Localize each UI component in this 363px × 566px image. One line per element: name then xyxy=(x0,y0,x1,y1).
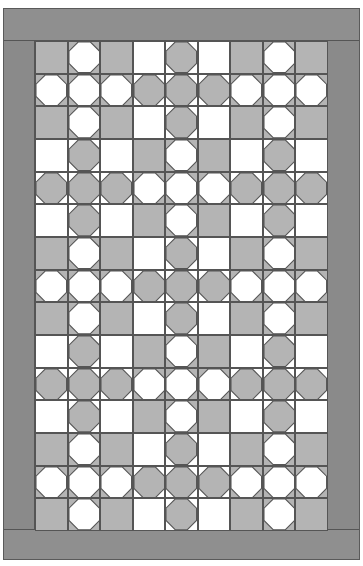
snowball-octagon xyxy=(165,368,198,401)
snowball-octagon xyxy=(165,466,198,499)
snowball-octagon xyxy=(165,433,198,466)
plain-square xyxy=(133,302,166,335)
octagon-shape xyxy=(69,499,100,530)
octagon-shape xyxy=(166,467,197,498)
snowball-octagon xyxy=(263,204,296,237)
quilt-border-left xyxy=(4,41,35,529)
snowball-octagon xyxy=(35,74,68,107)
snowball-octagon xyxy=(263,74,296,107)
octagon-shape xyxy=(69,401,100,432)
octagon-shape xyxy=(101,75,132,106)
octagon-shape xyxy=(231,369,262,400)
octagon-shape xyxy=(264,434,295,465)
octagon-shape xyxy=(69,75,100,106)
octagon-shape xyxy=(264,238,295,269)
octagon-shape xyxy=(264,173,295,204)
snowball-octagon xyxy=(263,302,296,335)
snowball-octagon xyxy=(165,498,198,531)
octagon-shape xyxy=(264,140,295,171)
quilt-border-bottom xyxy=(4,529,359,559)
snowball-octagon xyxy=(165,139,198,172)
octagon-shape xyxy=(199,271,230,302)
octagon-shape xyxy=(69,467,100,498)
snowball-octagon xyxy=(198,368,231,401)
octagon-shape xyxy=(296,173,327,204)
octagon-shape xyxy=(264,499,295,530)
octagon-shape xyxy=(166,75,197,106)
plain-square xyxy=(100,302,133,335)
octagon-shape xyxy=(264,303,295,334)
plain-square xyxy=(100,204,133,237)
snowball-octagon xyxy=(263,139,296,172)
octagon-shape xyxy=(69,434,100,465)
octagon-shape xyxy=(36,369,67,400)
plain-square xyxy=(35,106,68,139)
plain-square xyxy=(198,204,231,237)
octagon-shape xyxy=(296,75,327,106)
plain-square xyxy=(198,41,231,74)
snowball-octagon xyxy=(68,433,101,466)
octagon-shape xyxy=(134,467,165,498)
plain-square xyxy=(295,41,328,74)
plain-square xyxy=(133,498,166,531)
snowball-octagon xyxy=(295,368,328,401)
plain-square xyxy=(198,139,231,172)
octagon-shape xyxy=(231,271,262,302)
octagon-shape xyxy=(69,336,100,367)
plain-square xyxy=(35,335,68,368)
snowball-octagon xyxy=(263,106,296,139)
octagon-shape xyxy=(69,107,100,138)
plain-square xyxy=(35,204,68,237)
plain-square xyxy=(295,106,328,139)
octagon-shape xyxy=(36,271,67,302)
snowball-octagon xyxy=(230,172,263,205)
snowball-octagon xyxy=(68,302,101,335)
snowball-octagon xyxy=(68,466,101,499)
snowball-octagon xyxy=(230,368,263,401)
plain-square xyxy=(295,139,328,172)
snowball-octagon xyxy=(35,172,68,205)
snowball-octagon xyxy=(198,172,231,205)
snowball-octagon xyxy=(230,74,263,107)
snowball-octagon xyxy=(68,237,101,270)
snowball-octagon xyxy=(165,106,198,139)
snowball-octagon xyxy=(100,74,133,107)
snowball-octagon xyxy=(165,270,198,303)
plain-square xyxy=(198,302,231,335)
snowball-octagon xyxy=(68,106,101,139)
snowball-octagon xyxy=(68,270,101,303)
snowball-octagon xyxy=(68,498,101,531)
plain-square xyxy=(35,433,68,466)
snowball-octagon xyxy=(165,74,198,107)
octagon-shape xyxy=(231,75,262,106)
octagon-shape xyxy=(166,238,197,269)
snowball-octagon xyxy=(68,41,101,74)
plain-square xyxy=(133,400,166,433)
octagon-shape xyxy=(69,173,100,204)
snowball-octagon xyxy=(230,270,263,303)
plain-square xyxy=(133,335,166,368)
snowball-octagon xyxy=(165,400,198,433)
snowball-octagon xyxy=(263,466,296,499)
snowball-octagon xyxy=(35,270,68,303)
snowball-octagon xyxy=(165,204,198,237)
octagon-shape xyxy=(199,75,230,106)
octagon-shape xyxy=(101,271,132,302)
octagon-shape xyxy=(264,401,295,432)
octagon-shape xyxy=(296,467,327,498)
plain-square xyxy=(230,237,263,270)
snowball-octagon xyxy=(295,466,328,499)
snowball-octagon xyxy=(198,74,231,107)
snowball-octagon xyxy=(133,368,166,401)
octagon-shape xyxy=(264,271,295,302)
snowball-octagon xyxy=(263,498,296,531)
octagon-shape xyxy=(231,467,262,498)
plain-square xyxy=(198,335,231,368)
snowball-octagon xyxy=(68,172,101,205)
snowball-octagon xyxy=(68,400,101,433)
plain-square xyxy=(295,400,328,433)
snowball-octagon xyxy=(165,41,198,74)
snowball-octagon xyxy=(133,270,166,303)
quilt-border-top xyxy=(4,9,359,41)
plain-square xyxy=(230,498,263,531)
